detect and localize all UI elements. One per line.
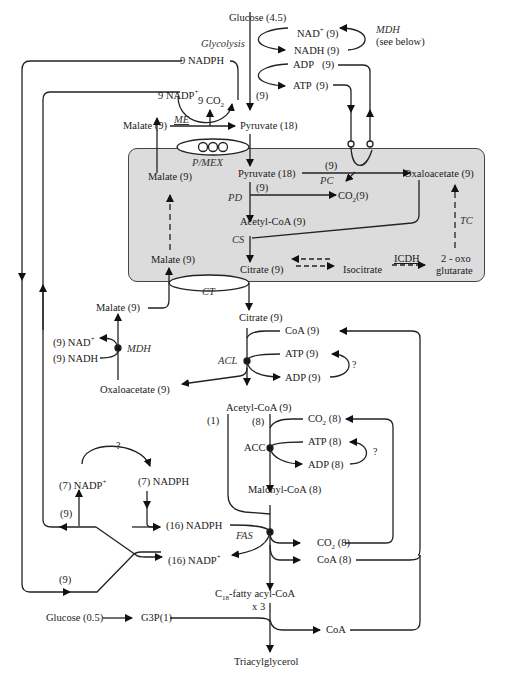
unknown-regen-3: ? bbox=[116, 440, 120, 452]
co2-fas-label: CO2 (8) bbox=[317, 537, 350, 553]
malonyl-coa-label: Malonyl-CoA (8) bbox=[248, 484, 321, 496]
atp-9-label: ATP (9) bbox=[285, 348, 318, 360]
unknown-regen-2: ? bbox=[373, 446, 377, 458]
pc-flux: (9) bbox=[325, 160, 337, 172]
adp-8-label: ADP (8) bbox=[308, 459, 343, 471]
pyruvate-mito-label: Pyruvate (18) bbox=[238, 168, 295, 180]
branch-8-flux: (8) bbox=[252, 416, 264, 428]
fas-enzyme-label: FAS bbox=[236, 530, 253, 542]
oxoglutarate-label-1: 2 - oxo bbox=[441, 253, 471, 265]
pc-enzyme-label: PC bbox=[320, 175, 333, 187]
oxaloacetate-cyto-label: Oxaloacetate (9) bbox=[100, 384, 170, 396]
co2-mito-label: CO2(9) bbox=[338, 190, 368, 206]
cs-enzyme-label: CS bbox=[232, 234, 244, 246]
co2-acc-label: CO2 (8) bbox=[308, 413, 341, 429]
atp-label: ATP bbox=[293, 80, 312, 92]
atp-8-label: ATP (8) bbox=[308, 436, 341, 448]
see-below-label: (see below) bbox=[376, 36, 425, 48]
adp-label: ADP bbox=[293, 59, 314, 71]
isocitrate-label: Isocitrate bbox=[343, 264, 382, 276]
icdh-enzyme-label: ICDH bbox=[394, 253, 420, 265]
coa-fas-label: CoA (8) bbox=[317, 554, 351, 566]
co2-9-label: 9 CO2 bbox=[198, 95, 224, 111]
malate-cyto-mid-label: Malate (9) bbox=[96, 302, 140, 314]
atp-count: (9) bbox=[316, 80, 328, 92]
pd-enzyme-label: PD bbox=[228, 192, 242, 204]
unknown-regen-1: ? bbox=[352, 359, 356, 371]
pmex-label: P/MEX bbox=[192, 157, 223, 169]
citrate-cyto-label: Citrate (9) bbox=[239, 312, 282, 324]
count-9-lower: (9) bbox=[59, 574, 71, 586]
nadph-16-label: (16) NADPH bbox=[166, 520, 222, 532]
nad-plus-label: NAD+ (9) bbox=[297, 24, 339, 40]
coa-final-label: CoA bbox=[326, 624, 346, 636]
ct-transporter-label: CT bbox=[202, 286, 215, 298]
nadph-7-label: (7) NADPH bbox=[138, 476, 189, 488]
g3p-label: G3P(1) bbox=[141, 612, 172, 624]
me-enzyme-label: ME bbox=[174, 114, 189, 126]
times-3-label: x 3 bbox=[252, 601, 265, 613]
glycolysis-flux: (9) bbox=[256, 90, 268, 102]
pd-flux: (9) bbox=[256, 182, 268, 194]
acl-enzyme-label: ACL bbox=[218, 355, 237, 367]
acc-enzyme-label: ACC bbox=[244, 442, 266, 454]
pathway-diagram: Glucose (4.5) Glycolysis NAD+ (9) NADH (… bbox=[0, 0, 507, 673]
mdh-enzyme-label: MDH bbox=[127, 343, 151, 355]
adp-count: (9) bbox=[322, 59, 334, 71]
malate-cytosol-label: Malate (9) bbox=[123, 120, 167, 132]
nadh-label: NADH (9) bbox=[294, 45, 339, 57]
branch-1-flux: (1) bbox=[207, 415, 219, 427]
nadp-7-label: (7) NADP+ bbox=[59, 476, 106, 492]
mdh-note-label: MDH bbox=[376, 24, 400, 36]
triacylglycerol-label: Triacylglycerol bbox=[234, 656, 298, 668]
adp-9-label: ADP (9) bbox=[285, 372, 320, 384]
nadp-16-label: (16) NADP+ bbox=[168, 551, 221, 567]
malate-mito-bottom-label: Malate (9) bbox=[151, 254, 195, 266]
glucose-small-label: Glucose (0.5) bbox=[46, 612, 103, 624]
count-9-upper: (9) bbox=[60, 508, 72, 520]
malate-mito-top-label: Malate (9) bbox=[148, 171, 192, 183]
citrate-mito-label: Citrate (9) bbox=[240, 264, 283, 276]
pyruvate-cytosol-label: Pyruvate (18) bbox=[240, 120, 297, 132]
glycolysis-label: Glycolysis bbox=[201, 38, 245, 50]
oxoglutarate-label-2: glutarate bbox=[436, 265, 473, 277]
nadp-9-label: 9 NADP+ bbox=[158, 86, 198, 102]
nad-mid-label: (9) NAD+ bbox=[53, 333, 95, 349]
nadh-mid-label: (9) NADH bbox=[53, 353, 98, 365]
oxaloacetate-mito-label: Oxaloacetate (9) bbox=[404, 168, 474, 180]
glucose-label: Glucose (4.5) bbox=[229, 12, 286, 24]
tc-enzyme-label: TC bbox=[460, 215, 473, 227]
acetyl-coa-mito-label: Acetyl-CoA (9) bbox=[240, 216, 306, 228]
nadph-9-label: 9 NADPH bbox=[180, 55, 224, 67]
acetyl-coa-cyto-label: Acetyl-CoA (9) bbox=[226, 402, 292, 414]
coa-9-label: CoA (9) bbox=[285, 325, 319, 337]
